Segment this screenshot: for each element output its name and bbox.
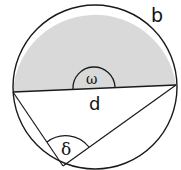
arc-label-b: b [151,4,163,26]
triangle-left-side [13,92,63,166]
chord-label-d: d [89,93,100,114]
triangle-right-side [63,85,176,166]
angle-label-omega: ω [86,71,97,87]
circle-diagram: b d ω δ [0,0,181,170]
angle-label-delta: δ [61,139,71,159]
